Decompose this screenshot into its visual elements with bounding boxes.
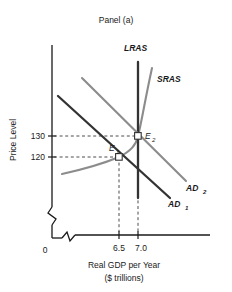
figure-canvas: Panel (a) Price Level 130 120 6.5 7.0 0 (0, 0, 232, 292)
e2-label-subscript: 2 (151, 137, 156, 143)
x-axis-label-line2: ($ trillions) (104, 273, 143, 283)
y-tick-label-120: 120 (31, 152, 45, 162)
y-tick-label-130: 130 (31, 131, 45, 141)
y-axis-break-mark (48, 207, 56, 225)
y-axis-label: Price Level (8, 119, 18, 161)
panel-title: Panel (a) (99, 15, 134, 25)
ad2-label: AD 2 (185, 183, 207, 195)
sras-label: SRAS (157, 74, 181, 84)
origin-label: 0 (43, 245, 48, 255)
lras-label: LRAS (124, 43, 147, 53)
e1-label: E 1 (109, 143, 119, 155)
e1-label-text: E (109, 143, 115, 153)
x-axis-break-mark (62, 232, 75, 241)
ad2-label-text: AD (185, 183, 198, 193)
x-tick-label-7point0: 7.0 (135, 243, 147, 253)
x-tick-label-6point5: 6.5 (113, 243, 125, 253)
ad2-label-subscript: 2 (202, 189, 207, 195)
e2-label-text: E (145, 131, 151, 141)
ad1-label-text: AD (167, 199, 180, 209)
ad1-label-subscript: 1 (185, 205, 189, 211)
x-axis-label-line1: Real GDP per Year (88, 260, 160, 270)
equilibrium-marker-e2 (135, 133, 142, 140)
ad1-label: AD 1 (167, 199, 189, 211)
e1-label-subscript: 1 (116, 149, 119, 155)
aggregate-demand-supply-figure: Panel (a) Price Level 130 120 6.5 7.0 0 (0, 0, 232, 292)
